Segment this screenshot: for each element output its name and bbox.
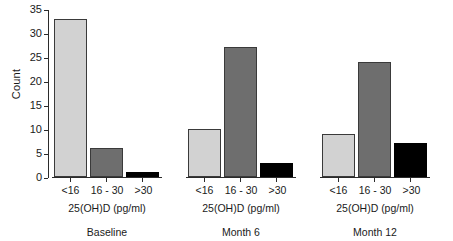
- panel-label-month-6: Month 6: [186, 226, 296, 238]
- category-labels-month-6: <16 16 - 30 >30: [186, 184, 296, 198]
- x-axis-spine-month-6: [186, 177, 296, 178]
- y-tick-label-15: 15: [16, 100, 42, 111]
- plot-area: <16 16 - 30 >30 25(OH)D (pg/ml) Baseline…: [48, 10, 446, 178]
- bar-month-12-lt16: [322, 134, 355, 177]
- category-labels-baseline: <16 16 - 30 >30: [52, 184, 162, 198]
- bar-month-6-lt16: [188, 129, 221, 177]
- x-tick-mark-baseline-16-30: [106, 178, 107, 182]
- bar-baseline-gt30: [126, 172, 159, 177]
- y-tick-mark-0: [44, 178, 48, 179]
- x-tick-mark-month-6-lt16: [204, 178, 205, 182]
- bar-chart-figure: Count 35 30 25 20 15 10 5 0 <16 16 - 30: [0, 0, 453, 241]
- category-labels-month-12: <16 16 - 30 >30: [320, 184, 430, 198]
- y-tick-label-35: 35: [16, 4, 42, 15]
- x-tick-mark-baseline-gt30: [142, 178, 143, 182]
- x-axis-label-month-12: 25(OH)D (pg/ml): [320, 202, 430, 214]
- bar-baseline-16-30: [90, 148, 123, 177]
- x-tick-mark-month-12-lt16: [338, 178, 339, 182]
- y-tick-label-25: 25: [16, 52, 42, 63]
- panel-label-baseline: Baseline: [52, 226, 162, 238]
- y-tick-label-10: 10: [16, 124, 42, 135]
- y-axis-tick-labels: 35 30 25 20 15 10 5 0: [10, 0, 42, 241]
- x-axis-label-month-6: 25(OH)D (pg/ml): [186, 202, 296, 214]
- panel-baseline: <16 16 - 30 >30 25(OH)D (pg/ml) Baseline: [52, 10, 162, 178]
- x-tick-label-month-12-gt30: >30: [390, 184, 433, 196]
- bar-month-6-gt30: [260, 163, 293, 177]
- x-tick-mark-month-6-gt30: [276, 178, 277, 182]
- x-axis-label-baseline: 25(OH)D (pg/ml): [52, 202, 162, 214]
- y-tick-label-30: 30: [16, 28, 42, 39]
- x-axis-spine-month-12: [320, 177, 430, 178]
- x-tick-label-month-6-gt30: >30: [256, 184, 299, 196]
- panel-label-month-12: Month 12: [320, 226, 430, 238]
- panel-month-6: <16 16 - 30 >30 25(OH)D (pg/ml) Month 6: [186, 10, 296, 178]
- panel-month-12: <16 16 - 30 >30 25(OH)D (pg/ml) Month 12: [320, 10, 430, 178]
- x-tick-mark-month-12-gt30: [410, 178, 411, 182]
- y-tick-label-20: 20: [16, 76, 42, 87]
- x-tick-mark-month-6-16-30: [240, 178, 241, 182]
- bar-month-6-16-30: [224, 47, 257, 177]
- bar-baseline-lt16: [54, 19, 87, 177]
- y-tick-label-0: 0: [16, 172, 42, 183]
- x-axis-spine-baseline: [52, 177, 162, 178]
- bar-month-12-gt30: [394, 143, 427, 177]
- x-tick-mark-month-12-16-30: [374, 178, 375, 182]
- y-tick-label-5: 5: [16, 148, 42, 159]
- x-tick-label-baseline-gt30: >30: [122, 184, 165, 196]
- bar-month-12-16-30: [358, 62, 391, 177]
- x-tick-mark-baseline-lt16: [70, 178, 71, 182]
